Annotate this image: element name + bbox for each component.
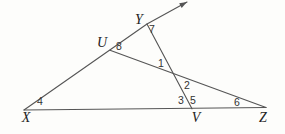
- ray-x-u-y-arrow-arrowhead-icon: [179, 2, 187, 8]
- segment-x-z: [24, 108, 266, 111]
- lines-layer: [24, 2, 266, 110]
- angle-label-7: 7: [149, 23, 155, 35]
- angle-label-5: 5: [190, 94, 196, 106]
- angle-label-4: 4: [37, 95, 43, 107]
- angle-label-6: 6: [234, 96, 240, 108]
- angle-label-8: 8: [116, 40, 122, 52]
- geometry-figure: XYUVZ12345678: [0, 0, 285, 134]
- vertex-label-u: U: [97, 35, 108, 50]
- vertex-label-z: Z: [259, 110, 267, 125]
- ray-x-u-y-arrow: [24, 2, 187, 110]
- vertex-label-x: X: [21, 110, 31, 125]
- angle-label-2: 2: [184, 79, 190, 91]
- vertex-label-v: V: [192, 110, 202, 125]
- angle-label-1: 1: [158, 57, 164, 69]
- geometry-diagram-svg: XYUVZ12345678: [0, 0, 285, 134]
- vertex-label-y: Y: [135, 12, 145, 27]
- angle-label-3: 3: [178, 94, 184, 106]
